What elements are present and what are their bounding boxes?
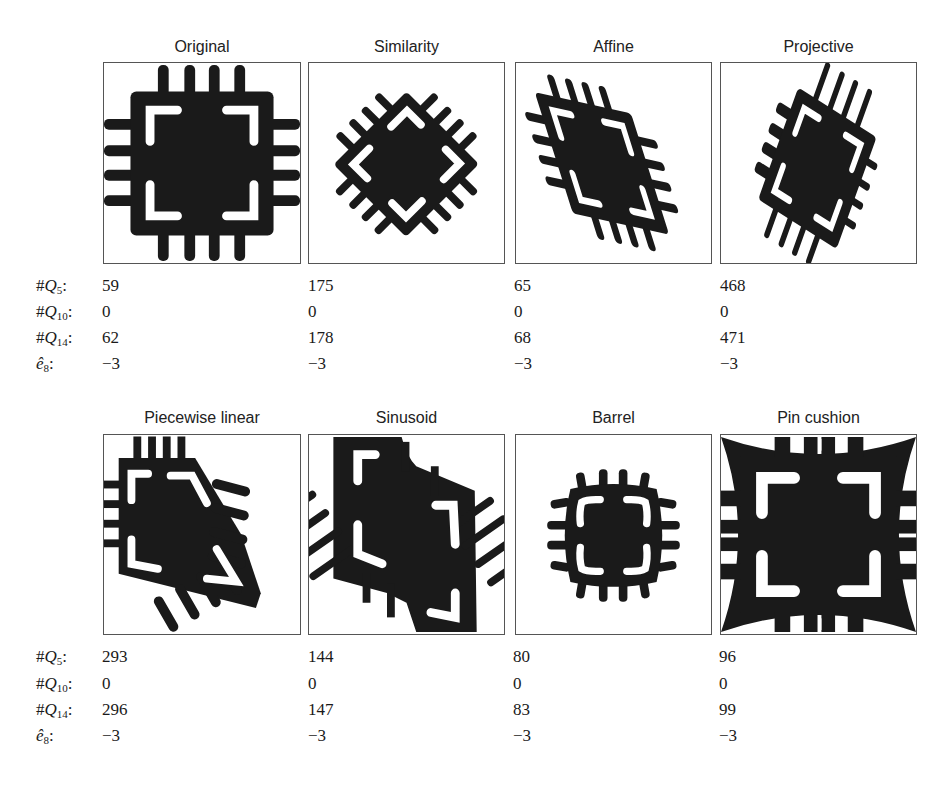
chip-original-icon — [104, 63, 300, 263]
panel-image-similarity — [308, 62, 505, 264]
stat-value: 83 — [513, 700, 530, 720]
panel-title-original: Original — [103, 38, 301, 56]
panel-title-pin-cushion: Pin cushion — [720, 409, 917, 427]
stat-value: −3 — [720, 354, 738, 374]
panel-title-affine: Affine — [515, 38, 712, 56]
panel-title-barrel: Barrel — [515, 409, 712, 427]
panel-image-projective — [720, 62, 917, 264]
stat-value: 68 — [514, 328, 531, 348]
panel-image-pin-cushion — [720, 434, 917, 635]
stat-value: 0 — [308, 674, 317, 694]
stat-value: −3 — [514, 354, 532, 374]
stat-label-e8: ê8: — [36, 354, 54, 374]
chip-similarity-icon — [309, 63, 504, 263]
chip-affine-icon — [516, 63, 711, 263]
stat-value: 296 — [102, 700, 128, 720]
chip-sinusoid-icon — [309, 435, 504, 634]
panel-title-piecewise-linear: Piecewise linear — [103, 409, 301, 427]
stat-label-q10: #Q10: — [36, 674, 73, 694]
stat-value: 293 — [102, 647, 128, 667]
stat-value: −3 — [513, 726, 531, 746]
stat-value: 471 — [720, 328, 746, 348]
stat-value: 0 — [719, 674, 728, 694]
stat-value: 0 — [308, 302, 317, 322]
chip-projective-icon — [721, 63, 916, 263]
stat-value: 96 — [719, 647, 736, 667]
stat-label-q10: #Q10: — [36, 302, 73, 322]
stat-value: 62 — [102, 328, 119, 348]
chip-piecewise-linear-icon — [104, 435, 300, 634]
panel-image-barrel — [515, 434, 712, 635]
stat-value: 99 — [719, 700, 736, 720]
stat-value: 0 — [720, 302, 729, 322]
stat-value: 468 — [720, 276, 746, 296]
stat-value: 0 — [102, 674, 111, 694]
panel-title-projective: Projective — [720, 38, 917, 56]
stat-value: 175 — [308, 276, 334, 296]
chip-barrel-icon — [516, 435, 711, 634]
stat-label-q14: #Q14: — [36, 328, 73, 348]
panel-title-similarity: Similarity — [308, 38, 505, 56]
stat-value: −3 — [719, 726, 737, 746]
panel-image-affine — [515, 62, 712, 264]
stat-value: 0 — [102, 302, 111, 322]
stat-value: 65 — [514, 276, 531, 296]
stat-label-q5: #Q5: — [36, 647, 67, 667]
stat-label-e8: ê8: — [36, 726, 54, 746]
panel-title-sinusoid: Sinusoid — [308, 409, 505, 427]
stat-value: 144 — [308, 647, 334, 667]
panel-image-sinusoid — [308, 434, 505, 635]
stat-value: 80 — [513, 647, 530, 667]
panel-image-original — [103, 62, 301, 264]
stat-value: −3 — [308, 726, 326, 746]
stat-label-q14: #Q14: — [36, 700, 73, 720]
stat-value: 147 — [308, 700, 334, 720]
stat-value: 0 — [513, 674, 522, 694]
stat-label-q5: #Q5: — [36, 276, 67, 296]
chip-pin-cushion-icon — [721, 435, 916, 634]
stat-value: 178 — [308, 328, 334, 348]
stat-value: 59 — [102, 276, 119, 296]
stat-value: 0 — [514, 302, 523, 322]
stat-value: −3 — [102, 354, 120, 374]
stat-value: −3 — [102, 726, 120, 746]
stat-value: −3 — [308, 354, 326, 374]
panel-image-piecewise-linear — [103, 434, 301, 635]
